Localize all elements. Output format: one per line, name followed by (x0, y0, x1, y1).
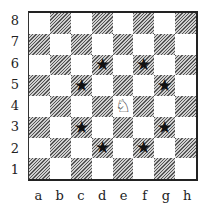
rank-label-6: 6 (8, 56, 22, 71)
square-h4 (175, 96, 196, 117)
square-a2 (29, 138, 50, 159)
square-e4: ♘ (113, 96, 134, 117)
square-f5 (133, 75, 154, 96)
square-g8 (154, 13, 175, 34)
square-d3 (92, 117, 113, 138)
square-d5 (92, 75, 113, 96)
star-marker-icon: ★ (157, 119, 172, 136)
square-g7 (154, 34, 175, 55)
square-c3: ★ (71, 117, 92, 138)
file-label-e: e (113, 188, 134, 203)
square-f4 (133, 96, 154, 117)
square-g4 (154, 96, 175, 117)
square-h6 (175, 55, 196, 76)
square-d8 (92, 13, 113, 34)
square-c5: ★ (71, 75, 92, 96)
square-b2 (50, 138, 71, 159)
file-label-b: b (49, 188, 70, 203)
file-label-d: d (92, 188, 113, 203)
square-g2 (154, 138, 175, 159)
square-h8 (175, 13, 196, 34)
rank-label-2: 2 (8, 141, 22, 156)
square-d6: ★ (92, 55, 113, 76)
square-h5 (175, 75, 196, 96)
file-label-g: g (156, 188, 177, 203)
square-a5 (29, 75, 50, 96)
chess-board: ★★★★♘★★★★ (28, 11, 198, 181)
square-a8 (29, 13, 50, 34)
square-f6: ★ (133, 55, 154, 76)
square-d4 (92, 96, 113, 117)
file-label-f: f (134, 188, 155, 203)
rank-label-5: 5 (8, 77, 22, 92)
square-b5 (50, 75, 71, 96)
square-e3 (113, 117, 134, 138)
square-a4 (29, 96, 50, 117)
rank-label-3: 3 (8, 119, 22, 134)
board-grid: ★★★★♘★★★★ (29, 13, 196, 179)
square-d7 (92, 34, 113, 55)
square-a6 (29, 55, 50, 76)
rank-label-7: 7 (8, 34, 22, 49)
square-c4 (71, 96, 92, 117)
square-d1 (92, 158, 113, 179)
square-e1 (113, 158, 134, 179)
square-e7 (113, 34, 134, 55)
square-c6 (71, 55, 92, 76)
square-h7 (175, 34, 196, 55)
star-marker-icon: ★ (95, 56, 110, 73)
rank-label-8: 8 (8, 13, 22, 28)
rank-label-1: 1 (8, 162, 22, 177)
file-label-a: a (28, 188, 49, 203)
star-marker-icon: ★ (136, 139, 151, 156)
square-g1 (154, 158, 175, 179)
star-marker-icon: ★ (157, 77, 172, 94)
square-f3 (133, 117, 154, 138)
square-f7 (133, 34, 154, 55)
square-c7 (71, 34, 92, 55)
square-a1 (29, 158, 50, 179)
file-label-h: h (177, 188, 198, 203)
square-h3 (175, 117, 196, 138)
square-b4 (50, 96, 71, 117)
square-c8 (71, 13, 92, 34)
square-g3: ★ (154, 117, 175, 138)
star-marker-icon: ★ (136, 56, 151, 73)
file-label-c: c (71, 188, 92, 203)
square-b6 (50, 55, 71, 76)
square-b7 (50, 34, 71, 55)
rank-label-4: 4 (8, 98, 22, 113)
square-b3 (50, 117, 71, 138)
square-g6 (154, 55, 175, 76)
square-h1 (175, 158, 196, 179)
square-b1 (50, 158, 71, 179)
square-e8 (113, 13, 134, 34)
square-a3 (29, 117, 50, 138)
square-f2: ★ (133, 138, 154, 159)
square-e5 (113, 75, 134, 96)
star-marker-icon: ★ (95, 139, 110, 156)
square-a7 (29, 34, 50, 55)
square-f1 (133, 158, 154, 179)
square-f8 (133, 13, 154, 34)
square-c1 (71, 158, 92, 179)
square-g5: ★ (154, 75, 175, 96)
star-marker-icon: ★ (74, 77, 89, 94)
star-marker-icon: ★ (74, 119, 89, 136)
square-b8 (50, 13, 71, 34)
square-c2 (71, 138, 92, 159)
square-e6 (113, 55, 134, 76)
square-h2 (175, 138, 196, 159)
square-e2 (113, 138, 134, 159)
white-knight-icon: ♘ (114, 98, 131, 115)
square-d2: ★ (92, 138, 113, 159)
